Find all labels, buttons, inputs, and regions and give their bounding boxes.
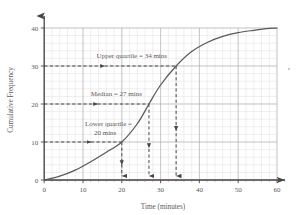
edge-speck bbox=[288, 68, 290, 70]
x-tick-label: 40 bbox=[196, 186, 204, 194]
x-tick-label: 0 bbox=[42, 186, 46, 194]
chart-canvas: 0102030405060 010203040 Upper quartile =… bbox=[0, 0, 297, 215]
y-tick-label: 30 bbox=[31, 63, 39, 71]
cumulative-frequency-chart: 0102030405060 010203040 Upper quartile =… bbox=[0, 0, 297, 215]
x-axis-title: Time (minutes) bbox=[141, 203, 186, 211]
y-axis-title: Cumulative Frequency bbox=[7, 67, 15, 133]
x-tick-label: 50 bbox=[235, 186, 243, 194]
annotation-label-lower-quartile-line2: 20 mins bbox=[94, 129, 117, 137]
y-tick-label: 20 bbox=[31, 101, 39, 109]
x-tick-label: 20 bbox=[118, 186, 126, 194]
y-tick-label: 40 bbox=[31, 25, 39, 33]
x-tick-label: 60 bbox=[274, 186, 282, 194]
annotation-label-lower-quartile: Lower quartile = bbox=[85, 120, 132, 128]
annotation-label-upper-quartile: Upper quartile = 34 mins bbox=[97, 52, 168, 60]
y-tick-label: 0 bbox=[35, 177, 39, 185]
y-tick-label: 10 bbox=[31, 139, 39, 147]
x-tick-label: 30 bbox=[157, 186, 165, 194]
x-tick-label: 10 bbox=[80, 186, 88, 194]
annotation-label-median: Median = 27 mins bbox=[91, 90, 142, 98]
